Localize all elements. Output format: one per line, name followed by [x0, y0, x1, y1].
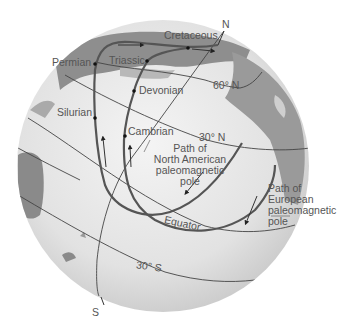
dot-permian — [93, 62, 97, 66]
land-australia — [18, 152, 44, 218]
globe-diagram: N S Cretaceous Permian Triassic Devonian… — [0, 0, 351, 333]
label-lat-60n: 60° N — [213, 80, 239, 91]
label-triassic: Triassic — [109, 55, 145, 66]
label-cretaceous: Cretaceous — [164, 30, 218, 41]
dot-devonian — [132, 89, 136, 93]
dot-cambrian — [123, 134, 127, 138]
label-european-path: Path of European paleomagnetic pole — [268, 183, 348, 227]
dot-cretaceous — [186, 46, 190, 50]
dot-triassic — [145, 59, 149, 63]
label-silurian: Silurian — [57, 107, 92, 118]
south-pole-label: S — [92, 307, 99, 318]
north-pole-label: N — [222, 19, 230, 30]
label-north-american-path: Path of North American paleomagnetic pol… — [150, 143, 230, 187]
dot-silurian — [93, 116, 97, 120]
label-devonian: Devonian — [139, 85, 183, 96]
label-cambrian: Cambrian — [128, 126, 174, 137]
label-permian: Permian — [52, 57, 91, 68]
